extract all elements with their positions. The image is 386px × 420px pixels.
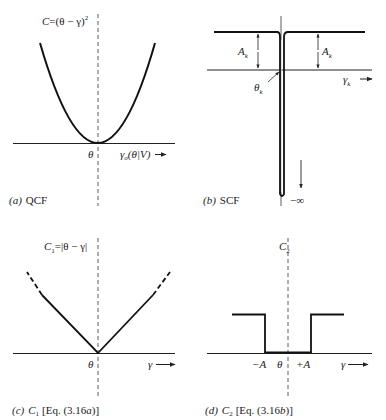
panel-a-caption: (a)QCF — [9, 194, 47, 207]
panel-c-c1: C1=|θ − γ| θ γ (c)C1[Eq. (3.16a)] — [12, 238, 175, 418]
panel-a-ylabel: C=(θ − γ)2 — [42, 14, 89, 28]
panel-a-parabola — [40, 43, 155, 143]
panel-d-plus-a-label: +A — [296, 358, 310, 370]
panel-c-theta-label: θ — [88, 358, 94, 370]
panel-c-caption: (c)C1[Eq. (3.16a)] — [12, 404, 99, 418]
panel-b-caption: (b)SCF — [203, 194, 239, 207]
panel-c-abs-curve-dashed-right — [153, 272, 170, 295]
panel-c-xlabel: γ — [148, 358, 153, 370]
panel-d-minus-a-label: −A — [252, 358, 266, 370]
panel-c-ylabel: C1=|θ − γ| — [44, 240, 87, 255]
panel-b-amp-label-left: Ak — [237, 45, 249, 60]
panel-d-caption: (d)C2[Eq. (3.16b)] — [205, 404, 293, 418]
panel-d-xlabel: γ — [341, 358, 346, 370]
panel-a-theta-label: θ — [88, 148, 94, 160]
cost-function-figure: C=(θ − γ)2 θ γo(θ|V) (a)QCF Ak Ak θk — [0, 0, 386, 420]
panel-b-scf-curve — [214, 32, 365, 196]
panel-b-scf: Ak Ak θk γk −∞ (b)SCF — [203, 16, 372, 207]
panel-b-neg-inf-label: −∞ — [290, 194, 304, 206]
panel-c-abs-curve-solid — [42, 295, 153, 353]
panel-b-amp-label-right: Ak — [321, 45, 333, 60]
panel-d-theta-label: θ — [277, 358, 283, 370]
panel-b-theta-label: θk — [254, 81, 263, 96]
panel-b-xlabel: γk — [343, 73, 351, 88]
panel-d-ylabel: C2 — [279, 240, 290, 255]
panel-a-qcf: C=(θ − γ)2 θ γo(θ|V) (a)QCF — [9, 14, 175, 207]
panel-c-abs-curve-dashed-left — [27, 272, 42, 295]
panel-a-xlabel: γo(θ|V) — [120, 148, 151, 162]
panel-d-c2: C2 −A θ +A γ (d)C2[Eq. (3.16b)] — [205, 238, 372, 418]
panel-b-theta-pointer-icon — [268, 72, 279, 82]
